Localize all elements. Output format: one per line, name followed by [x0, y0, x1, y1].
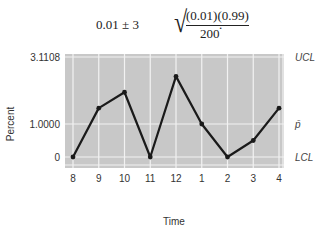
y-axis-ticks: 3.11081.00000	[29, 52, 60, 163]
data-point	[122, 90, 127, 95]
y-tick-label: 3.1108	[30, 52, 60, 63]
p-control-chart: 3.11081.00000 891011121234 UCLp̄LCL Time…	[0, 0, 319, 238]
control-limit-labels: UCLp̄LCL	[294, 52, 315, 163]
x-tick-label: 12	[170, 173, 182, 184]
x-tick-label: 2	[225, 173, 231, 184]
x-tick-label: 1	[199, 173, 205, 184]
x-axis-ticks: 891011121234	[70, 173, 282, 184]
y-tick-label: 1.0000	[29, 119, 60, 130]
x-tick-label: 10	[119, 173, 131, 184]
x-tick-label: 11	[145, 173, 156, 184]
data-point	[148, 155, 153, 160]
x-tick-label: 4	[276, 173, 282, 184]
data-point	[251, 138, 256, 143]
data-point	[277, 106, 282, 111]
x-tick-label: 3	[250, 173, 256, 184]
data-point	[71, 155, 76, 160]
y-tick-label: 0	[54, 152, 60, 163]
y-axis-label: Percent	[5, 107, 16, 142]
x-tick-label: 8	[70, 173, 76, 184]
data-point	[225, 155, 230, 160]
x-tick-label: 9	[96, 173, 102, 184]
control-limit-label: LCL	[295, 152, 313, 163]
x-axis-label: Time	[163, 216, 185, 227]
control-limit-label: UCL	[295, 52, 315, 63]
data-point	[96, 106, 101, 111]
data-point	[199, 122, 204, 127]
data-point	[174, 74, 179, 79]
control-limit-label: p̄	[294, 119, 301, 130]
